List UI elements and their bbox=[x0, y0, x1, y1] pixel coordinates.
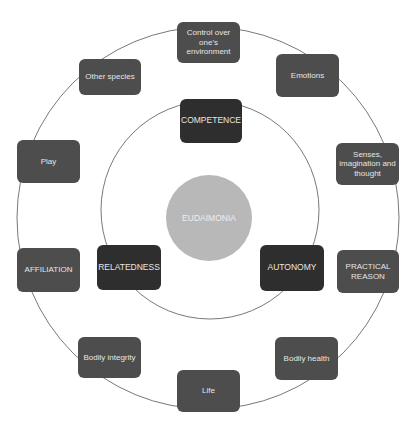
node-affiliation: AFFILIATION bbox=[17, 248, 80, 292]
node-label: AUTONOMY bbox=[268, 263, 317, 273]
node-label: PRACTICAL REASON bbox=[340, 262, 396, 281]
node-practical-reason: PRACTICAL REASON bbox=[337, 250, 399, 293]
node-autonomy: AUTONOMY bbox=[260, 245, 324, 291]
node-bodily-health: Bodily health bbox=[275, 337, 338, 380]
node-play: Play bbox=[17, 140, 80, 183]
node-label: COMPETENCE bbox=[181, 116, 241, 126]
node-bodily-integrity: Bodily integrity bbox=[78, 337, 141, 378]
node-other-species: Other species bbox=[79, 59, 141, 95]
node-label: RELATEDNESS bbox=[98, 263, 160, 273]
node-label: Play bbox=[41, 157, 57, 167]
node-label: Other species bbox=[85, 72, 134, 82]
node-label: AFFILIATION bbox=[25, 265, 73, 275]
node-life: Life bbox=[177, 370, 240, 412]
node-label: Senses, imagination and thought bbox=[339, 150, 396, 179]
node-competence: COMPETENCE bbox=[180, 99, 242, 143]
node-label: Control over one's environment bbox=[180, 28, 237, 57]
node-relatedness: RELATEDNESS bbox=[97, 245, 161, 290]
node-label: Emotions bbox=[291, 71, 324, 81]
node-emotions: Emotions bbox=[276, 54, 339, 97]
node-senses: Senses, imagination and thought bbox=[336, 143, 399, 185]
eudaimonia-node: EUDAIMONIA bbox=[166, 175, 252, 261]
node-label: Bodily integrity bbox=[83, 353, 135, 363]
node-label: Life bbox=[202, 386, 215, 396]
node-label: Bodily health bbox=[284, 354, 330, 364]
eudaimonia-label: EUDAIMONIA bbox=[182, 213, 236, 223]
node-control-environment: Control over one's environment bbox=[177, 22, 240, 63]
